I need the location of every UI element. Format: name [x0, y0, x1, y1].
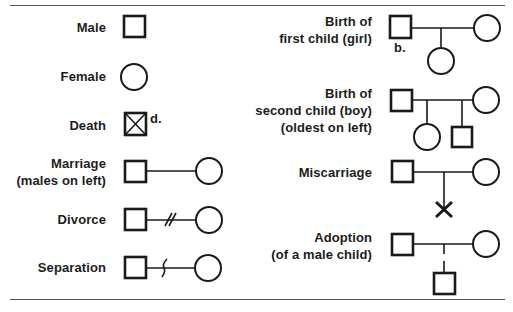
separation-symbol-icon: [125, 255, 221, 281]
marriage-symbol-icon: [125, 158, 222, 184]
birth-first-child-symbol-icon: [390, 15, 500, 74]
male-square-icon: [124, 16, 145, 37]
divorce-symbol-icon: [125, 207, 222, 233]
miscarriage-symbol-icon: [392, 159, 499, 217]
symbols-canvas: [0, 0, 513, 312]
death-crossed-square-icon: [125, 113, 146, 135]
adoption-symbol-icon: [392, 231, 499, 294]
birth-second-child-symbol-icon: [391, 87, 499, 150]
female-circle-icon: [121, 64, 147, 90]
